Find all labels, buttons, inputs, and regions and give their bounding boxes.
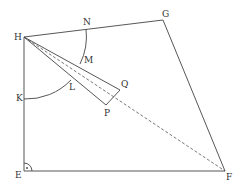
right-angle-marker-E: [24, 163, 32, 171]
dashed-diagonal-HF: [24, 37, 225, 171]
segment-HG: [24, 20, 163, 37]
segment-HP: [24, 37, 106, 105]
label-E: E: [15, 170, 22, 180]
label-H: H: [14, 32, 22, 42]
arc-KL: [24, 80, 71, 99]
segment-PQ: [106, 90, 120, 105]
label-L: L: [69, 82, 75, 92]
geometry-diagram: H N G F E K L M P Q: [0, 0, 244, 189]
label-G: G: [162, 9, 169, 19]
label-K: K: [16, 93, 23, 103]
label-Q: Q: [121, 79, 128, 89]
label-N: N: [83, 17, 91, 27]
label-F: F: [226, 172, 232, 182]
segment-GF: [163, 20, 225, 171]
label-M: M: [84, 55, 93, 65]
label-P: P: [104, 108, 110, 118]
right-angle-dot-E: [26, 167, 28, 169]
